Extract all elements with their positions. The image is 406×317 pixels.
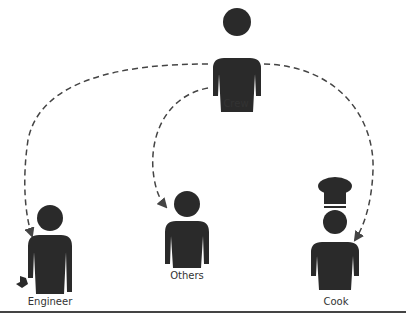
edge-crew-others bbox=[153, 88, 208, 207]
person-icon bbox=[213, 8, 261, 112]
node-others bbox=[165, 191, 209, 268]
edge-crew-cook bbox=[264, 64, 373, 240]
person-with-wrench-icon bbox=[16, 205, 72, 294]
node-engineer bbox=[16, 205, 72, 294]
person-with-chef-hat-icon bbox=[311, 177, 359, 290]
node-crew bbox=[213, 8, 261, 112]
node-label-engineer: Engineer bbox=[28, 296, 73, 307]
node-label-others: Others bbox=[170, 270, 204, 281]
node-cook bbox=[311, 177, 359, 290]
node-label-crew: Crew bbox=[223, 98, 248, 109]
person-icon bbox=[165, 191, 209, 268]
bottom-divider bbox=[0, 311, 406, 313]
node-label-cook: Cook bbox=[323, 296, 348, 307]
